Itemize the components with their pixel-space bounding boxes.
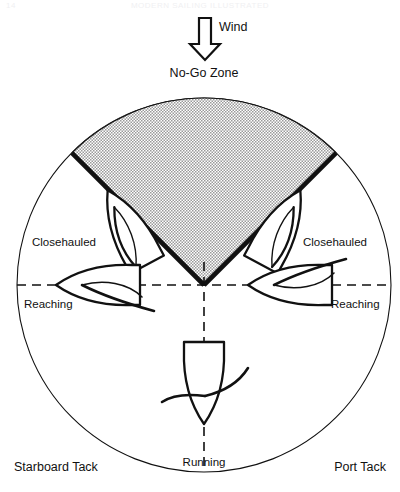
- ghost-page-header: 14 MODERN SAILING ILLUSTRATED: [0, 0, 400, 12]
- reaching-right-label: Reaching: [331, 298, 380, 310]
- closehauled-left-label: Closehauled: [32, 236, 96, 248]
- reaching-left-label: Reaching: [24, 298, 73, 310]
- points-of-sail-diagram: Wind No-Go Zone: [0, 0, 400, 492]
- no-go-zone-label: No-Go Zone: [170, 66, 239, 80]
- ghost-page-number: 14: [6, 0, 16, 12]
- starboard-tack-label: Starboard Tack: [14, 460, 99, 474]
- wind-arrow-icon: [190, 18, 220, 60]
- ghost-running-title: MODERN SAILING ILLUSTRATED: [131, 1, 269, 10]
- port-tack-label: Port Tack: [334, 460, 387, 474]
- wind-label: Wind: [219, 20, 248, 34]
- points-of-sail-figure: 14 MODERN SAILING ILLUSTRATED Wind No-Go…: [0, 0, 400, 492]
- running-label: Running: [183, 456, 226, 468]
- closehauled-right-label: Closehauled: [303, 236, 367, 248]
